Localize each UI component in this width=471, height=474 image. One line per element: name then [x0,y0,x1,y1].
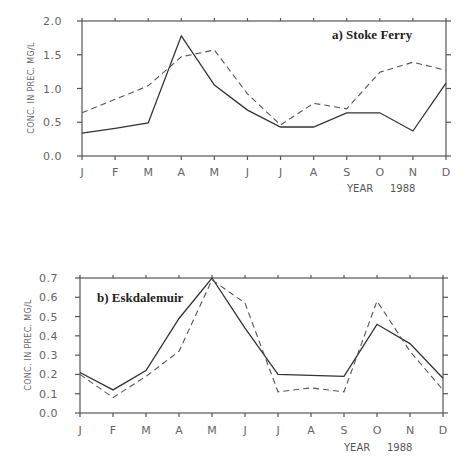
x-tick-label: J [278,166,282,179]
x-tick-label: A [175,424,183,437]
x-tick-label: S [343,166,350,179]
panel-a-stoke-ferry: 0.00.51.01.52.0 JFMAMJJASOND a) Stoke Fe… [27,15,451,194]
x-tick-label: N [409,166,417,179]
panel-a-title: a) Stoke Ferry [332,27,413,42]
panel-b-eskdalemuir: 0.00.10.20.30.40.50.60.7 JFMAMJJASOND b)… [24,272,448,453]
y-tick-label: 1.5 [43,49,62,62]
panel-b-y-axis-label: CONC. IN PREC. MG/L [24,299,33,391]
x-tick-label: J [242,424,246,437]
y-tick-label: 0.1 [39,388,58,401]
y-tick-label: 0.4 [39,330,58,343]
x-tick-label: J [245,166,249,179]
x-tick-label: M [207,424,217,437]
x-tick-label: O [375,166,384,179]
y-tick-label: 0.6 [39,291,58,304]
x-tick-label: J [275,424,279,437]
y-tick-label: 0.5 [43,116,62,129]
panel-b-x-axis-label-year: 1988 [387,442,412,453]
y-tick-label: 0.0 [39,407,58,420]
x-tick-label: M [141,424,151,437]
x-tick-label: A [178,166,186,179]
x-tick-label: M [143,166,153,179]
y-tick-label: 1.0 [43,83,62,96]
panel-a-x-axis-label-year: 1988 [390,183,415,194]
x-tick-label: A [310,166,318,179]
x-tick-label: M [210,166,220,179]
x-tick-label: A [307,424,315,437]
x-tick-label: S [341,424,348,437]
chart-figure: 0.00.51.01.52.0 JFMAMJJASOND a) Stoke Fe… [0,0,471,474]
panel-a-dashed-series [82,50,446,125]
y-tick-label: 0.2 [39,368,58,381]
panel-a-x-axis-label-word: YEAR [346,183,373,194]
x-tick-label: O [373,424,382,437]
x-tick-label: D [439,424,447,437]
y-tick-label: 0.5 [39,311,58,324]
y-tick-label: 0.7 [39,272,58,285]
x-tick-label: N [406,424,414,437]
panel-a-solid-series [82,36,446,133]
panel-b-title: b) Eskdalemuir [97,290,184,305]
x-tick-label: F [110,424,116,437]
y-tick-label: 0.0 [43,150,62,163]
x-tick-label: J [77,424,81,437]
y-tick-label: 2.0 [43,15,62,28]
panel-b-x-axis-label-word: YEAR [343,442,370,453]
panel-a-x-ticks: JFMAMJJASOND [79,18,450,179]
panel-a-y-axis-label: CONC. IN PREC. MG/L [27,42,36,134]
x-tick-label: F [112,166,118,179]
y-tick-label: 0.3 [39,349,58,362]
x-tick-label: J [79,166,83,179]
x-tick-label: D [442,166,450,179]
